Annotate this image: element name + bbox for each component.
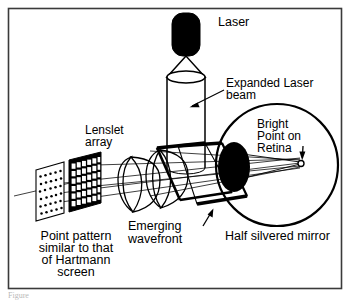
label-emerging-line2: wavefront <box>127 232 183 246</box>
retina-bright-point <box>298 161 304 167</box>
label-laser: Laser <box>218 15 249 29</box>
lenslet-array <box>69 152 101 212</box>
label-half-silvered-mirror: Half silvered mirror <box>225 229 330 243</box>
laser-source <box>172 13 200 56</box>
hartmann-point-screen <box>36 162 64 221</box>
optical-diagram: Laser Expanded Laser beam Lenslet array … <box>0 0 350 301</box>
label-emerging-line1: Emerging <box>128 219 182 233</box>
label-point-pattern-line4: screen <box>57 265 95 279</box>
figure-caption-fragment: Figure <box>8 291 342 301</box>
figure-root: Laser Expanded Laser beam Lenslet array … <box>0 0 350 301</box>
label-lenslet-line2: array <box>85 135 112 149</box>
label-bright-point-line3: Retina <box>257 141 292 155</box>
label-expanded-beam-line2: beam <box>226 88 256 102</box>
